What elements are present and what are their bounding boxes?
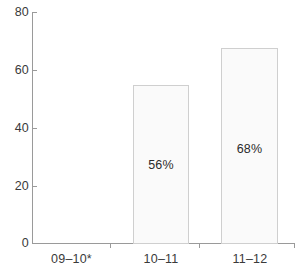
y-axis-tick-20 [32,186,37,187]
y-axis-label-40: 40 [3,122,29,134]
x-axis-tick-2 [199,243,200,248]
y-axis-label-40-wrap: 40 [0,122,29,134]
y-axis-tick-40 [32,128,37,129]
y-axis-tick-60 [32,70,37,71]
y-axis-label-60: 60 [3,64,29,76]
y-axis-tick-80 [32,12,37,13]
y-axis-label-80: 80 [3,6,29,18]
bar-10-11: 56% [133,85,189,244]
y-axis-label-60-wrap: 60 [0,64,29,76]
x-axis-tick-1 [110,243,111,248]
bar-value-10-11: 56% [134,158,188,172]
y-axis-label-20: 20 [3,180,29,192]
x-axis-label-11-12: 11–12 [210,252,290,266]
y-axis-label-0: 0 [3,237,29,249]
x-axis-label-09-10: 09–10* [33,252,110,266]
y-axis-label-80-wrap: 80 [0,6,29,18]
bar-11-12: 68% [221,48,278,244]
x-axis-label-10-11: 10–11 [121,252,201,266]
y-axis-label-20-wrap: 20 [0,180,29,192]
bar-value-11-12: 68% [222,142,277,156]
y-axis-label-0-wrap: 0 [0,237,29,249]
x-axis-tick-3 [294,243,295,248]
bar-chart: 80 60 40 20 0 09–10* 56% 10–11 68% 11–12 [0,0,301,274]
